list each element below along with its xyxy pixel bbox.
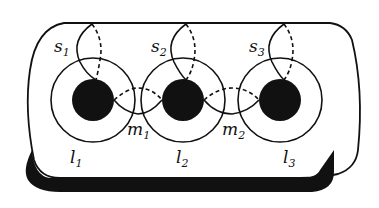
curve-s1	[77, 24, 101, 80]
curve-s3	[269, 24, 293, 80]
hole-2	[162, 79, 204, 121]
surface-diagram: s1 s2 s3 m1 m2 l1 l2 l3	[0, 0, 379, 208]
label-s2: s2	[151, 36, 167, 59]
curve-m1	[114, 88, 162, 114]
hole-1	[72, 79, 114, 121]
label-m2: m2	[222, 119, 245, 142]
label-s3: s3	[249, 36, 265, 59]
curve-s2	[171, 24, 195, 80]
label-s1: s1	[54, 36, 70, 59]
label-l2: l2	[176, 147, 188, 170]
diagram-canvas: s1 s2 s3 m1 m2 l1 l2 l3	[0, 0, 379, 208]
hole-3	[259, 79, 301, 121]
label-l3: l3	[283, 147, 295, 170]
curve-m2	[204, 88, 259, 114]
label-l1: l1	[70, 147, 82, 170]
